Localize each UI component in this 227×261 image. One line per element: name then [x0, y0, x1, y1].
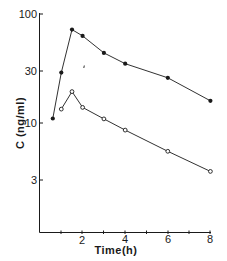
x-axis-title: Time(h)	[94, 244, 137, 256]
axes	[40, 13, 212, 234]
series-open-circles	[59, 90, 212, 174]
open-circle-marker	[59, 107, 63, 111]
series-filled-circles	[51, 28, 213, 121]
filled-circle-marker	[70, 28, 74, 32]
series-layer	[51, 28, 213, 174]
scan-artifact-mark	[84, 66, 85, 69]
y-axis-title: C (ng/ml)	[14, 97, 26, 149]
open-circle-marker	[81, 106, 85, 110]
open-circle-marker	[209, 170, 213, 174]
x-tick-label-6: 6	[165, 233, 171, 245]
open-circle-marker	[70, 90, 74, 94]
series-line	[53, 30, 211, 119]
open-circle-marker	[102, 117, 106, 121]
filled-circle-marker	[51, 116, 55, 120]
x-tick-label-2: 2	[79, 234, 85, 246]
series-line	[61, 92, 210, 172]
filled-circle-marker	[166, 76, 170, 80]
open-circle-marker	[123, 128, 127, 132]
x-tick-label-8: 8	[207, 233, 213, 245]
pharmacokinetic-chart: 100 30 10 3 2 4 6 8 Time(h) C (ng/ml)	[0, 0, 227, 261]
y-tick-label-30: 30	[25, 65, 37, 77]
filled-circle-marker	[81, 34, 85, 38]
filled-circle-marker	[123, 62, 127, 66]
y-tick-label-10: 10	[25, 117, 37, 129]
filled-circle-marker	[59, 71, 63, 75]
open-circle-marker	[166, 149, 170, 153]
y-tick-label-100: 100	[19, 8, 37, 20]
filled-circle-marker	[102, 51, 106, 55]
y-tick-label-3: 3	[31, 174, 37, 186]
filled-circle-marker	[208, 99, 212, 103]
